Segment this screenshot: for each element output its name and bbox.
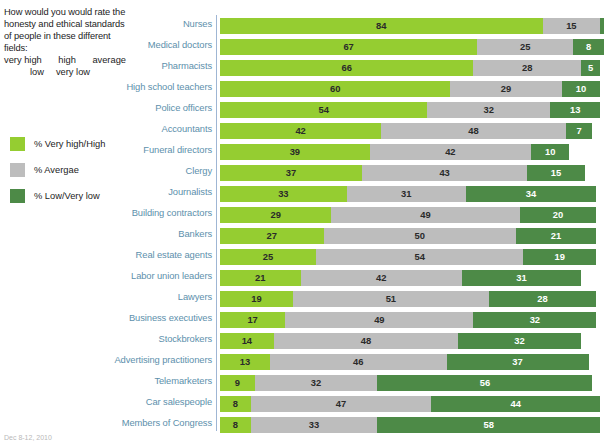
bar-value-label: 49 [374,314,384,325]
stacked-bar: 374315 [220,165,604,181]
bar-value-label: 27 [267,230,277,241]
bar-segment-low: 44 [431,396,600,412]
bar-value-label: 60 [330,83,340,94]
bar-value-label: 10 [576,83,586,94]
bar-value-label: 20 [553,209,563,220]
row-label-advertising-practitioners: Advertising practitioners [12,354,212,365]
bar-segment-low: 15 [527,165,585,181]
bar-segment-very-high: 37 [220,165,362,181]
stacked-bar: 8415 [220,18,604,34]
bar-value-label: 39 [290,146,300,157]
bar-segment-very-high: 17 [220,312,285,328]
bar-value-label: 37 [512,356,522,367]
bar-segment-low: 20 [520,207,597,223]
bar-segment-low: 13 [550,102,600,118]
bar-value-label: 34 [526,188,536,199]
bar-value-label: 51 [386,293,396,304]
bar-value-label: 32 [530,314,540,325]
bar-segment-very-high: 84 [220,18,543,34]
bar-value-label: 21 [551,230,561,241]
bar-segment-low: 8 [573,39,604,55]
bar-segment-very-high: 13 [220,354,270,370]
stacked-bar: 543213 [220,102,604,118]
bar-segment-average: 42 [301,270,462,286]
stacked-bar: 144832 [220,333,604,349]
bar-segment-low: 21 [516,228,597,244]
bar-segment-very-high: 27 [220,228,324,244]
stacked-bar: 195128 [220,291,604,307]
bar-value-label: 31 [516,272,526,283]
bar-value-label: 29 [501,83,511,94]
row-label-accountants: Accountants [12,123,212,134]
bar-segment-low: 56 [377,375,592,391]
bar-segment-low: 32 [473,312,596,328]
bar-value-label: 58 [484,419,494,430]
bar-segment-average: 48 [274,333,458,349]
row-label-members-of-congress: Members of Congress [12,417,212,428]
chart-row: Stockbrokers144832 [0,330,610,351]
bar-segment-very-high: 60 [220,81,450,97]
bar-value-label: 47 [336,398,346,409]
bar-value-label: 33 [309,419,319,430]
bar-value-label: 28 [522,62,532,73]
bar-value-label: 17 [247,314,257,325]
bar-segment-low: 31 [462,270,581,286]
chart-row: Telemarketers93256 [0,372,610,393]
bar-segment-average: 31 [347,186,466,202]
bar-value-label: 29 [270,209,280,220]
row-label-medical-doctors: Medical doctors [12,39,212,50]
bar-segment-very-high: 42 [220,123,381,139]
bar-segment-average: 50 [324,228,516,244]
bar-value-label: 32 [484,104,494,115]
bar-value-label: 44 [510,398,520,409]
bar-segment-very-high: 19 [220,291,293,307]
bar-value-label: 42 [295,125,305,136]
row-label-journalists: Journalists [12,186,212,197]
chart-row: Lawyers195128 [0,288,610,309]
stacked-bar: 93256 [220,375,604,391]
bar-value-label: 56 [480,377,490,388]
chart-row: Members of Congress83358 [0,414,610,435]
chart-row: Nurses8415 [0,15,610,36]
chart-row: Police officers543213 [0,99,610,120]
bar-value-label: 66 [342,62,352,73]
bar-value-label: 43 [439,167,449,178]
bar-value-label: 8 [586,41,591,52]
row-label-funeral-directors: Funeral directors [12,144,212,155]
bar-value-label: 19 [555,251,565,262]
bar-segment-very-high: 14 [220,333,274,349]
bar-value-label: 32 [311,377,321,388]
bar-value-label: 49 [420,209,430,220]
chart-row: Building contractors294920 [0,204,610,225]
bar-segment-average: 29 [450,81,561,97]
bar-value-label: 67 [343,41,353,52]
bar-value-label: 46 [353,356,363,367]
chart-row: Clergy374315 [0,162,610,183]
row-label-clergy: Clergy [12,165,212,176]
bar-value-label: 42 [445,146,455,157]
bar-value-label: 50 [414,230,424,241]
bar-segment-very-high: 54 [220,102,427,118]
bar-segment-average: 32 [255,375,378,391]
chart-row: Funeral directors394210 [0,141,610,162]
chart-row: Advertising practitioners134637 [0,351,610,372]
bar-segment-average: 49 [331,207,519,223]
stacked-bar: 67258 [220,39,604,55]
bar-segment-low: 5 [581,60,600,76]
bar-value-label: 15 [551,167,561,178]
stacked-bar: 602910 [220,81,604,97]
chart-row: High school teachers602910 [0,78,610,99]
bar-value-label: 14 [242,335,252,346]
row-label-nurses: Nurses [12,18,212,29]
stacked-bar: 255419 [220,249,604,265]
bar-segment-very-high: 33 [220,186,347,202]
bar-value-label: 37 [286,167,296,178]
bar-segment-average: 51 [293,291,489,307]
bar-segment-low: 10 [562,81,600,97]
bar-value-label: 9 [235,377,240,388]
bar-value-label: 31 [401,188,411,199]
bar-value-label: 33 [278,188,288,199]
bar-segment-low: 58 [377,417,600,433]
bar-segment-very-high: 8 [220,417,251,433]
bar-segment-very-high: 39 [220,144,370,160]
